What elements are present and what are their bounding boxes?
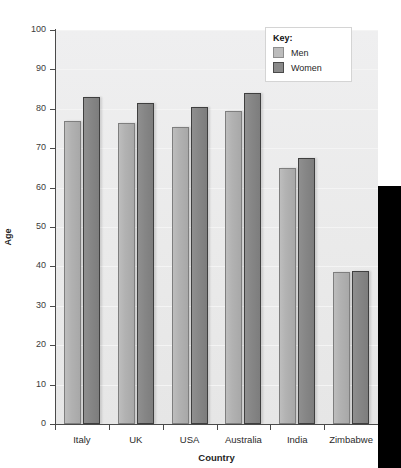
y-axis-tick-label: 0 (18, 419, 46, 428)
y-axis-tick (50, 266, 55, 267)
bar-uk-men (118, 123, 135, 424)
legend-label-men: Men (291, 48, 309, 58)
y-axis-tick-label: 50 (18, 222, 46, 231)
legend-swatch-men (273, 47, 284, 58)
legend-title: Key: (273, 33, 351, 43)
y-axis-title: Age (3, 217, 13, 257)
x-axis-tick-label: UK (109, 434, 163, 445)
x-axis-tick-label: India (270, 434, 324, 445)
y-axis-tick (50, 69, 55, 70)
x-axis-tick-label: USA (163, 434, 217, 445)
bar-italy-women (83, 97, 100, 424)
y-axis-tick-label: 90 (18, 64, 46, 73)
legend-entries: MenWomen (273, 47, 351, 73)
bar-zimbabwe-men (333, 272, 350, 424)
bar-italy-men (64, 121, 81, 424)
y-axis-tick (50, 30, 55, 31)
y-axis-tick (50, 148, 55, 149)
gridline (55, 188, 378, 189)
y-axis-tick-label: 70 (18, 143, 46, 152)
y-axis-tick-label: 30 (18, 301, 46, 310)
x-axis-tick (270, 425, 271, 430)
bar-india-women (298, 158, 315, 424)
y-axis-tick (50, 109, 55, 110)
x-axis-title: Country (55, 452, 378, 463)
y-axis-tick-label: 60 (18, 183, 46, 192)
chart-legend: Key: MenWomen (265, 27, 352, 82)
bar-usa-women (191, 107, 208, 424)
y-axis-tick (50, 188, 55, 189)
bar-australia-women (244, 93, 261, 424)
chart-plot-area (55, 30, 378, 424)
y-axis-tick-label: 80 (18, 104, 46, 113)
gridline (55, 109, 378, 110)
y-axis-tick (50, 227, 55, 228)
y-axis-tick-label: 40 (18, 261, 46, 270)
y-axis-tick-label: 10 (18, 380, 46, 389)
y-axis-tick (50, 385, 55, 386)
legend-entry-women: Women (273, 62, 351, 73)
x-axis-tick-label: Italy (55, 434, 109, 445)
x-axis-tick (324, 425, 325, 430)
x-axis-tick (163, 425, 164, 430)
black-overlay-region (378, 186, 401, 468)
gridline (55, 266, 378, 267)
y-axis-tick (50, 345, 55, 346)
x-axis-tick-label: Zimbabwe (324, 434, 378, 445)
x-axis-tick (55, 425, 56, 430)
bar-australia-men (225, 111, 242, 424)
bar-india-men (279, 168, 296, 424)
bar-zimbabwe-women (352, 271, 369, 424)
x-axis-tick-label: Australia (217, 434, 271, 445)
bar-uk-women (137, 103, 154, 424)
gridline (55, 148, 378, 149)
y-axis-line (55, 29, 56, 425)
x-axis-tick (217, 425, 218, 430)
gridline (55, 385, 378, 386)
x-axis-tick (109, 425, 110, 430)
gridline (55, 227, 378, 228)
gridline (55, 345, 378, 346)
legend-label-women: Women (291, 63, 322, 73)
legend-swatch-women (273, 62, 284, 73)
legend-entry-men: Men (273, 47, 351, 58)
top-cutoff-text-strip (0, 0, 401, 12)
y-axis-tick (50, 306, 55, 307)
y-axis-tick-label: 100 (18, 25, 46, 34)
y-axis-tick-label: 20 (18, 340, 46, 349)
gridline (55, 306, 378, 307)
bar-usa-men (172, 127, 189, 424)
